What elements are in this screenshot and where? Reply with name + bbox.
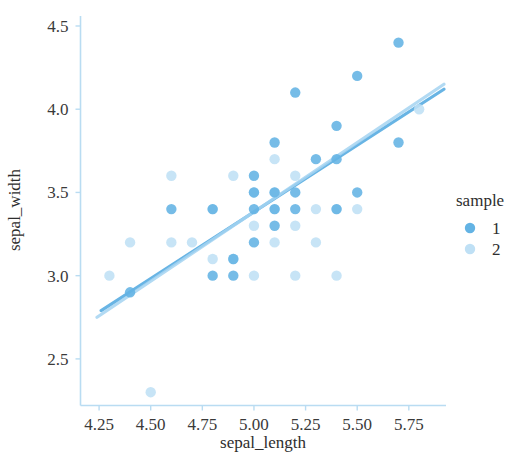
scatter-point: [249, 221, 259, 231]
x-tick-label: 5.00: [239, 415, 269, 434]
scatter-point: [311, 237, 321, 247]
scatter-point: [166, 237, 176, 247]
scatter-point: [249, 187, 259, 197]
scatter-point: [290, 270, 300, 280]
scatter-point: [352, 204, 362, 214]
scatter-point: [207, 270, 217, 280]
scatter-point: [166, 171, 176, 181]
legend: sample 12: [456, 191, 504, 259]
legend-marker-2: [465, 244, 475, 254]
x-tick-label: 5.75: [394, 415, 424, 434]
axes-spines: [81, 16, 447, 406]
y-tick-label: 3.0: [47, 267, 68, 286]
scatter-point: [146, 387, 156, 397]
y-tick-label: 2.5: [47, 350, 68, 369]
scatter-point: [125, 287, 135, 297]
scatter-point: [166, 204, 176, 214]
scatter-point: [269, 137, 279, 147]
scatter-point: [290, 204, 300, 214]
scatter-points-series-1: [125, 37, 404, 297]
scatter-point: [207, 254, 217, 264]
scatter-point: [228, 270, 238, 280]
scatter-point: [207, 204, 217, 214]
scatter-point: [187, 237, 197, 247]
scatter-point: [228, 254, 238, 264]
scatter-point: [290, 87, 300, 97]
scatter-point: [269, 221, 279, 231]
legend-label-1: 1: [492, 219, 501, 238]
scatter-point: [249, 171, 259, 181]
scatter-point: [331, 121, 341, 131]
regression-line-series-2: [97, 84, 444, 317]
legend-marker-1: [465, 223, 475, 233]
scatter-point: [331, 154, 341, 164]
scatter-point: [104, 270, 114, 280]
scatter-point: [393, 37, 403, 47]
y-tick-label: 4.0: [47, 100, 68, 119]
x-tick-label: 4.75: [187, 415, 217, 434]
x-tick-label: 4.25: [84, 415, 114, 434]
scatter-point: [249, 237, 259, 247]
scatter-point: [290, 221, 300, 231]
y-axis-tick-labels: 2.53.03.54.04.5: [47, 17, 68, 369]
x-tick-label: 5.25: [291, 415, 321, 434]
scatter-point: [249, 270, 259, 280]
x-tick-label: 4.50: [136, 415, 166, 434]
scatter-point: [393, 137, 403, 147]
scatter-point: [331, 204, 341, 214]
scatter-point: [228, 171, 238, 181]
scatter-point: [352, 187, 362, 197]
legend-entries: 12: [465, 219, 501, 259]
scatter-point: [331, 270, 341, 280]
scatter-point: [269, 187, 279, 197]
x-tick-label: 5.50: [342, 415, 372, 434]
x-axis-label: sepal_length: [220, 433, 306, 452]
scatter-plot-figure: 4.254.504.755.005.255.505.75 2.53.03.54.…: [0, 0, 519, 460]
scatter-point: [311, 204, 321, 214]
y-axis-label: sepal_width: [5, 168, 24, 251]
regression-lines: [97, 84, 444, 317]
y-tick-label: 3.5: [47, 183, 68, 202]
scatter-point: [269, 237, 279, 247]
scatter-point: [290, 187, 300, 197]
scatter-point: [269, 154, 279, 164]
legend-label-2: 2: [492, 240, 501, 259]
scatter-point: [290, 171, 300, 181]
y-tick-label: 4.5: [47, 17, 68, 36]
scatter-point: [125, 237, 135, 247]
scatter-point: [414, 104, 424, 114]
scatter-points-series-2: [104, 104, 424, 397]
scatter-point: [269, 204, 279, 214]
legend-title: sample: [456, 191, 504, 210]
scatter-point: [352, 71, 362, 81]
scatter-point: [249, 204, 259, 214]
x-axis-tick-labels: 4.254.504.755.005.255.505.75: [84, 415, 423, 434]
scatter-point: [311, 154, 321, 164]
plot-canvas: 4.254.504.755.005.255.505.75 2.53.03.54.…: [0, 0, 519, 460]
